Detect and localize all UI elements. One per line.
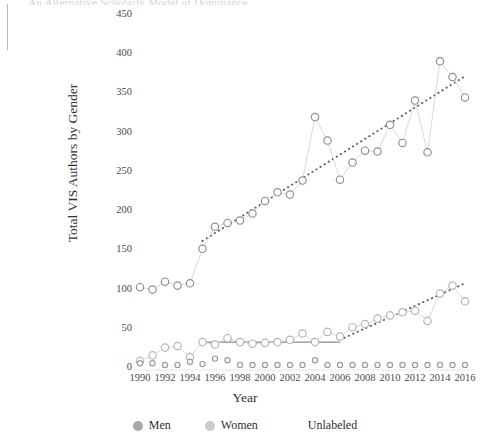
data-point (399, 139, 406, 146)
data-point (374, 315, 381, 322)
data-point (286, 191, 293, 198)
legend-marker-icon (205, 421, 215, 431)
data-point (274, 189, 281, 196)
data-point (224, 219, 231, 226)
data-point (436, 58, 443, 65)
data-point (312, 358, 317, 363)
data-point (275, 362, 280, 367)
data-point (174, 342, 181, 349)
data-point (211, 341, 218, 348)
legend-label: Men (149, 418, 171, 433)
data-point (149, 352, 156, 359)
data-point (450, 362, 455, 367)
data-point (324, 137, 331, 144)
data-point (311, 113, 318, 120)
data-point (361, 320, 368, 327)
data-point (299, 330, 306, 337)
data-point (387, 362, 392, 367)
data-point (149, 286, 156, 293)
data-point (375, 362, 380, 367)
x-axis-label: Year (0, 390, 490, 406)
y-tick-0: 0 (98, 361, 132, 372)
data-point (336, 176, 343, 183)
data-point (462, 362, 467, 367)
data-point (161, 344, 168, 351)
data-point (199, 338, 206, 345)
data-point (461, 298, 468, 305)
legend-label: Unlabeled (308, 418, 357, 433)
chart-legend: MenWomenUnlabeled (0, 418, 490, 433)
trend-lines-layer (203, 76, 466, 342)
y-tick-150: 150 (98, 243, 132, 254)
data-point (261, 197, 268, 204)
data-point (362, 362, 367, 367)
y-tick-350: 350 (98, 86, 132, 97)
data-point (311, 338, 318, 345)
data-point (437, 362, 442, 367)
data-point (449, 282, 456, 289)
data-point (424, 317, 431, 324)
data-point (386, 121, 393, 128)
y-tick-300: 300 (98, 126, 132, 137)
data-point (150, 361, 155, 366)
legend-label: Women (221, 418, 258, 433)
data-point (325, 362, 330, 367)
y-tick-400: 400 (98, 47, 132, 58)
data-points-layer (136, 58, 468, 368)
data-point (175, 362, 180, 367)
data-point (237, 362, 242, 367)
data-point (137, 361, 142, 366)
data-point (337, 362, 342, 367)
legend-marker-icon (133, 421, 143, 431)
data-point (300, 362, 305, 367)
data-point (250, 362, 255, 367)
x-tick-2016: 2016 (445, 372, 485, 383)
legend-item-men[interactable]: Men (133, 418, 171, 433)
data-point (162, 362, 167, 367)
data-point (262, 362, 267, 367)
legend-item-unlabeled[interactable]: Unlabeled (292, 418, 357, 433)
legend-item-women[interactable]: Women (205, 418, 258, 433)
data-point (249, 340, 256, 347)
data-point (400, 362, 405, 367)
data-point (212, 356, 217, 361)
legend-marker-icon (292, 421, 302, 431)
data-point (200, 362, 205, 367)
data-point (236, 338, 243, 345)
data-point (249, 210, 256, 217)
y-tick-450: 450 (98, 8, 132, 19)
y-tick-200: 200 (98, 204, 132, 215)
data-point (411, 307, 418, 314)
data-point (261, 339, 268, 346)
data-point (299, 177, 306, 184)
data-point (161, 278, 168, 285)
data-point (186, 280, 193, 287)
y-axis-label: Total VIS Authors by Gender (65, 63, 81, 263)
chart-page: An Alternative Scholarly Model of Domina… (0, 0, 490, 446)
data-point (286, 336, 293, 343)
data-point (236, 217, 243, 224)
data-point (461, 94, 468, 101)
y-tick-100: 100 (98, 283, 132, 294)
data-point (449, 73, 456, 80)
scatter-plot: Total VIS Authors by Gender Year 0501001… (0, 0, 490, 446)
data-point (361, 147, 368, 154)
data-point (174, 282, 181, 289)
data-point (399, 309, 406, 316)
data-point (436, 290, 443, 297)
data-point (374, 148, 381, 155)
data-point (424, 149, 431, 156)
data-point (324, 328, 331, 335)
y-tick-50: 50 (98, 322, 132, 333)
data-point (349, 159, 356, 166)
y-tick-250: 250 (98, 165, 132, 176)
data-point (224, 335, 231, 342)
data-point (425, 362, 430, 367)
series-connector-layer (140, 61, 465, 361)
trend-line-dotted (203, 76, 466, 241)
data-point (225, 358, 230, 363)
data-point (136, 284, 143, 291)
data-point (412, 362, 417, 367)
data-point (349, 324, 356, 331)
data-point (386, 312, 393, 319)
